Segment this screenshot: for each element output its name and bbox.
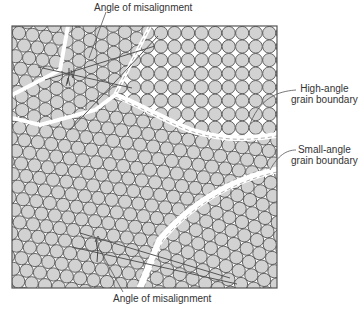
atom: [117, 254, 130, 267]
atom: [147, 140, 160, 153]
atom: [141, 11, 154, 24]
atom: [237, 291, 250, 304]
atom: [240, 242, 253, 255]
atom: [238, 229, 251, 242]
atom: [0, 141, 9, 154]
atom: [276, 189, 289, 202]
atom: [37, 243, 50, 256]
atom: [0, 216, 11, 229]
atom: [0, 226, 10, 239]
atom: [135, 174, 148, 187]
atom: [115, 124, 128, 137]
atom: [75, 213, 88, 226]
atom: [133, 138, 146, 151]
atom: [130, 18, 143, 31]
atom: [17, 39, 30, 52]
atom: [263, 121, 276, 134]
atom: [214, 149, 227, 162]
atom: [276, 270, 289, 283]
high-angle-label-line1: High-angle: [291, 83, 358, 94]
atom: [276, 26, 289, 39]
atom: [197, 171, 210, 184]
atom: [276, 81, 289, 94]
atom: [249, 121, 262, 134]
atom: [222, 94, 235, 107]
atom: [107, 33, 120, 46]
atom: [249, 26, 262, 39]
atom: [259, 12, 272, 25]
atom: [154, 53, 167, 66]
atom: [13, 121, 26, 134]
atom: [71, 14, 84, 27]
atom: [152, 152, 165, 165]
atom: [249, 13, 262, 26]
atom: [270, 13, 283, 26]
atom: [12, 26, 25, 39]
atom: [124, 208, 137, 221]
grain-boundary-diagram: Angle of misalignment High-angle grain b…: [0, 0, 360, 309]
atom: [118, 195, 131, 208]
atom: [209, 81, 222, 94]
atom: [278, 230, 291, 243]
atom: [18, 228, 31, 241]
atom: [249, 67, 262, 80]
atom: [40, 220, 53, 233]
atom: [58, 234, 71, 247]
atom: [279, 270, 292, 283]
atom: [222, 26, 235, 39]
atom: [72, 41, 85, 54]
atom: [57, 13, 70, 26]
atom: [87, 13, 100, 26]
atom: [236, 67, 249, 80]
high-angle-label-line2: grain boundary: [291, 94, 358, 105]
atom: [115, 218, 128, 231]
atom: [38, 279, 51, 292]
atom: [276, 243, 289, 256]
atom: [9, 50, 22, 63]
atom: [94, 289, 107, 302]
atom: [140, 186, 153, 199]
atom: [109, 265, 122, 278]
top-angle-label: Angle of misalignment: [94, 2, 192, 13]
atom: [33, 266, 46, 279]
atom: [181, 67, 194, 80]
atom: [46, 292, 59, 305]
atom: [0, 265, 7, 278]
atom: [46, 173, 59, 186]
atom: [8, 203, 21, 216]
atom: [276, 175, 289, 188]
atom: [280, 64, 293, 77]
atom: [283, 47, 296, 60]
atom: [254, 155, 267, 168]
atom: [17, 287, 30, 300]
atom: [247, 12, 260, 25]
atom: [232, 164, 245, 177]
atom: [100, 275, 113, 288]
atom: [236, 13, 249, 26]
atom: [120, 231, 133, 244]
atom: [71, 141, 84, 154]
atom: [63, 247, 76, 260]
atom: [279, 28, 292, 41]
atom: [184, 169, 197, 182]
atom: [276, 241, 289, 254]
atom: [0, 273, 11, 286]
atom: [69, 259, 82, 272]
atom: [268, 265, 281, 278]
atom: [235, 215, 248, 228]
high-angle-label: High-angle grain boundary: [291, 83, 358, 105]
atom: [19, 13, 32, 26]
atom: [123, 113, 136, 126]
atom: [55, 257, 68, 270]
atom: [28, 159, 41, 172]
atom: [168, 94, 181, 107]
atom: [277, 182, 290, 195]
atom: [0, 212, 9, 225]
atom: [23, 241, 36, 254]
atom: [0, 48, 9, 61]
atom: [235, 141, 248, 154]
atom: [15, 157, 28, 170]
atom: [278, 119, 291, 132]
atom: [0, 154, 12, 167]
atom: [13, 216, 26, 229]
